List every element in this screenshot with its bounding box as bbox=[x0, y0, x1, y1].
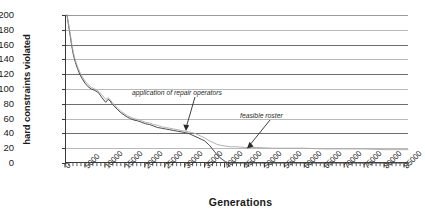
y-axis-tick-label: 20 bbox=[0, 143, 14, 153]
y-axis-tick-label: 160 bbox=[0, 40, 14, 50]
y-axis-tick bbox=[62, 45, 66, 46]
gridline bbox=[66, 133, 408, 134]
y-axis-tick-label: 120 bbox=[0, 69, 14, 79]
gridline bbox=[66, 89, 408, 90]
y-axis-tick-label: 100 bbox=[0, 84, 14, 94]
y-axis-tick-label: 200 bbox=[0, 10, 14, 20]
y-axis-tick bbox=[62, 104, 66, 105]
y-axis-tick-label: 80 bbox=[0, 99, 14, 109]
y-axis-tick-label: 60 bbox=[0, 114, 14, 124]
gridline bbox=[66, 59, 408, 60]
x-axis-title-text: Generations bbox=[209, 196, 272, 208]
y-axis-tick bbox=[62, 30, 66, 31]
gridline bbox=[66, 15, 408, 16]
y-axis-tick bbox=[62, 148, 66, 149]
y-axis-title: hard constraints violated bbox=[21, 10, 32, 170]
y-axis-tick bbox=[62, 74, 66, 75]
gridline bbox=[66, 45, 408, 46]
gridline bbox=[66, 119, 408, 120]
y-axis-tick-label: 180 bbox=[0, 25, 14, 35]
y-axis-tick bbox=[62, 59, 66, 60]
y-axis-tick-label: 40 bbox=[0, 128, 14, 138]
gridline bbox=[66, 74, 408, 75]
y-axis-tick bbox=[62, 133, 66, 134]
y-axis-tick-label: 0 bbox=[0, 158, 14, 168]
gridline bbox=[66, 104, 408, 105]
annotation-repair-operators: application of repair operators bbox=[132, 89, 222, 96]
y-axis-tick bbox=[62, 89, 66, 90]
gridline bbox=[66, 30, 408, 31]
plot-area bbox=[65, 15, 408, 163]
annotation-feasible-roster: feasible roster bbox=[240, 112, 283, 119]
y-axis-tick bbox=[62, 119, 66, 120]
x-axis-title: Generations bbox=[0, 196, 425, 208]
y-axis-tick-label: 140 bbox=[0, 54, 14, 64]
chart-container: hard constraints violated 02040608010012… bbox=[0, 0, 425, 219]
y-axis-tick bbox=[62, 15, 66, 16]
